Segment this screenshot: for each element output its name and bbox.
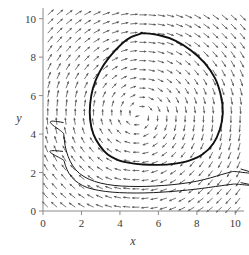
trajectory-curves: [50, 33, 249, 193]
plot-canvas: 02468100246810 x y: [0, 0, 249, 255]
y-tick-label: 8: [31, 51, 37, 63]
y-axis-title: y: [15, 111, 22, 125]
x-tick-label: 0: [40, 217, 46, 229]
x-axis-title: x: [129, 234, 136, 248]
x-tick-label: 6: [156, 217, 162, 229]
y-tick-label: 0: [31, 205, 37, 217]
y-tick-label: 2: [31, 167, 37, 179]
y-tick-label: 10: [25, 13, 37, 25]
phase-portrait-figure: 02468100246810 x y: [0, 0, 249, 255]
tick-labels: 02468100246810: [25, 13, 241, 229]
vector-field-arrows: [42, 9, 246, 213]
x-tick-label: 2: [79, 217, 85, 229]
x-tick-label: 4: [117, 217, 123, 229]
x-tick-label: 10: [230, 217, 242, 229]
y-tick-label: 6: [31, 90, 37, 102]
y-tick-label: 4: [31, 128, 37, 140]
x-tick-label: 8: [194, 217, 200, 229]
